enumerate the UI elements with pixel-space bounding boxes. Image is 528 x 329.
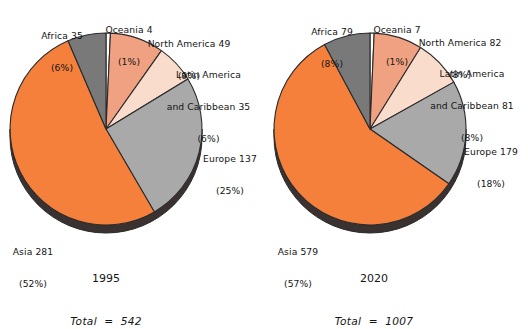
slice-label-europe: Europe 137 (25%) <box>197 133 263 218</box>
chart-total-2020: Total = 1007 <box>310 314 438 328</box>
pie-chart-2020: Africa 79 (8%) Oceania 7 (1%) North Amer… <box>264 0 528 281</box>
slice-label-europe: Europe 179 (18%) <box>456 126 526 211</box>
slice-label-latin-america-line2: and Caribbean 35 <box>155 102 262 113</box>
chart-year-1995: 1995 <box>46 272 166 286</box>
chart-total-1995: Total = 542 <box>46 314 166 328</box>
slice-label-europe-line1: Europe 179 <box>456 147 526 158</box>
slice-label-latin-america-line1: Latin America <box>155 70 262 81</box>
slice-label-europe-line2: (18%) <box>456 179 526 190</box>
chart-year-2020: 2020 <box>310 272 438 286</box>
pie-chart-1995: Africa 35 (6%) Oceania 4 (1%) North Amer… <box>0 0 264 281</box>
slice-label-europe-line2: (25%) <box>197 186 263 197</box>
slice-label-europe-line1: Europe 137 <box>197 154 263 165</box>
chart-caption-2020: 2020 Total = 1007 <box>310 244 438 329</box>
chart-caption-1995: 1995 Total = 542 <box>46 244 166 329</box>
slice-label-latin-america-line1: Latin America <box>420 69 524 80</box>
slice-label-latin-america-line2: and Caribbean 81 <box>420 101 524 112</box>
